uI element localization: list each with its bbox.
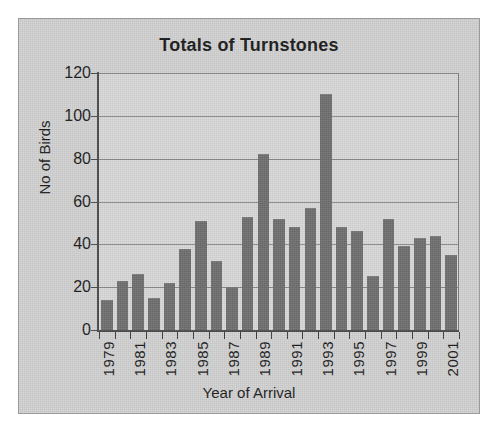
x-tick-mark bbox=[256, 332, 257, 339]
bar bbox=[320, 94, 332, 330]
x-tick-mark bbox=[162, 332, 163, 339]
x-tick-label: 1987 bbox=[225, 341, 242, 376]
bar bbox=[211, 261, 223, 330]
x-tick-label: 1979 bbox=[100, 341, 117, 376]
x-tick-label: 1991 bbox=[288, 341, 305, 376]
bar bbox=[289, 227, 301, 330]
bar bbox=[336, 227, 348, 330]
bar bbox=[242, 217, 254, 331]
y-tick-mark bbox=[91, 287, 98, 288]
x-tick-mark bbox=[193, 332, 194, 339]
bar bbox=[148, 298, 160, 330]
x-tick-label: 2001 bbox=[444, 341, 461, 376]
chart-figure: Totals of Turnstones 020406080100120 No … bbox=[18, 18, 480, 414]
x-tick-mark bbox=[365, 332, 366, 339]
bar bbox=[226, 287, 238, 330]
x-tick-mark bbox=[349, 332, 350, 339]
y-tick-mark bbox=[91, 244, 98, 245]
x-tick-label: 1993 bbox=[319, 341, 336, 376]
x-tick-mark bbox=[209, 332, 210, 339]
bar bbox=[383, 219, 395, 330]
y-tick-label: 120 bbox=[47, 64, 91, 82]
y-tick-mark bbox=[91, 116, 98, 117]
bar bbox=[273, 219, 285, 330]
bar bbox=[367, 276, 379, 330]
x-tick-mark bbox=[381, 332, 382, 339]
y-tick-label: 0 bbox=[47, 321, 91, 339]
bar bbox=[414, 238, 426, 330]
x-tick-mark bbox=[334, 332, 335, 339]
x-tick-mark bbox=[302, 332, 303, 339]
x-tick-label: 1983 bbox=[162, 341, 179, 376]
x-tick-mark bbox=[459, 332, 460, 339]
y-tick-mark bbox=[91, 73, 98, 74]
bar bbox=[179, 249, 191, 330]
x-tick-label: 1997 bbox=[382, 341, 399, 376]
bar bbox=[430, 236, 442, 330]
x-tick-mark bbox=[396, 332, 397, 339]
bar bbox=[195, 221, 207, 330]
x-tick-mark bbox=[287, 332, 288, 339]
y-tick-mark bbox=[91, 330, 98, 331]
bars-layer bbox=[99, 73, 459, 330]
x-tick-mark bbox=[443, 332, 444, 339]
y-tick-label: 20 bbox=[47, 278, 91, 296]
y-axis-title: No of Birds bbox=[36, 88, 53, 228]
x-tick-label: 1985 bbox=[194, 341, 211, 376]
x-tick-mark bbox=[318, 332, 319, 339]
bar bbox=[164, 283, 176, 330]
x-tick-mark bbox=[412, 332, 413, 339]
chart-title: Totals of Turnstones bbox=[19, 35, 479, 56]
y-tick-label: 60 bbox=[47, 193, 91, 211]
x-tick-mark bbox=[428, 332, 429, 339]
x-axis-title: Year of Arrival bbox=[19, 384, 479, 401]
y-tick-label: 40 bbox=[47, 235, 91, 253]
y-tick-label: 80 bbox=[47, 150, 91, 168]
bar bbox=[258, 154, 270, 330]
bar bbox=[132, 274, 144, 330]
bar bbox=[351, 231, 363, 330]
bar bbox=[445, 255, 457, 330]
x-axis-ticks bbox=[99, 332, 459, 340]
x-tick-mark bbox=[99, 332, 100, 339]
x-tick-mark bbox=[146, 332, 147, 339]
x-tick-mark bbox=[224, 332, 225, 339]
y-tick-label: 100 bbox=[47, 107, 91, 125]
x-tick-label: 1981 bbox=[131, 341, 148, 376]
x-tick-mark bbox=[130, 332, 131, 339]
y-tick-mark bbox=[91, 159, 98, 160]
x-tick-label: 1995 bbox=[350, 341, 367, 376]
x-tick-label: 1989 bbox=[256, 341, 273, 376]
bar bbox=[117, 281, 129, 330]
x-tick-mark bbox=[115, 332, 116, 339]
bar bbox=[101, 300, 113, 330]
x-tick-mark bbox=[240, 332, 241, 339]
bar bbox=[398, 246, 410, 330]
bar bbox=[305, 208, 317, 330]
x-tick-label: 1999 bbox=[413, 341, 430, 376]
x-tick-mark bbox=[177, 332, 178, 339]
x-tick-mark bbox=[271, 332, 272, 339]
y-tick-mark bbox=[91, 202, 98, 203]
